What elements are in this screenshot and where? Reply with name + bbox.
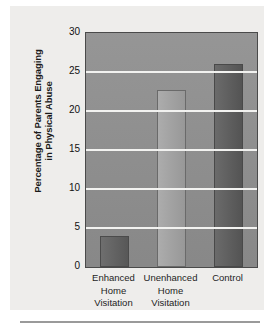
y-tick-label-25: 25 bbox=[56, 66, 80, 76]
y-tick-label-5: 5 bbox=[56, 222, 80, 232]
y-tick-label-0: 0 bbox=[56, 261, 80, 271]
x-axis-tick-labels: Enhanced Home VisitationUnenhanced Home … bbox=[85, 272, 258, 316]
gridline-20 bbox=[86, 110, 257, 112]
gridline-15 bbox=[86, 149, 257, 151]
y-axis-title-text: Percentage of Parents Engaging in Physic… bbox=[32, 49, 55, 192]
bar-sheen bbox=[215, 65, 243, 266]
y-tick-label-20: 20 bbox=[56, 105, 80, 115]
gridline-10 bbox=[86, 188, 257, 190]
bar-sheen bbox=[101, 237, 129, 266]
y-axis-title: Percentage of Parents Engaging in Physic… bbox=[26, 26, 60, 216]
x-tick-label-1: Unenhanced Home Visitation bbox=[142, 272, 199, 310]
gridline-5 bbox=[86, 227, 257, 229]
y-tick-label-10: 10 bbox=[56, 183, 80, 193]
bar-0[interactable] bbox=[100, 236, 130, 267]
y-tick-label-15: 15 bbox=[56, 144, 80, 154]
figure-panel: Percentage of Parents Engaging in Physic… bbox=[10, 6, 264, 310]
gridline-25 bbox=[86, 71, 257, 73]
bar-2[interactable] bbox=[214, 64, 244, 267]
y-axis-tick-labels: 051015202530 bbox=[56, 26, 80, 274]
x-tick-label-2: Control bbox=[199, 272, 256, 285]
bottom-divider-rule bbox=[20, 321, 260, 323]
bar-1[interactable] bbox=[157, 90, 187, 267]
x-tick-label-0: Enhanced Home Visitation bbox=[85, 272, 142, 310]
bar-sheen bbox=[158, 91, 186, 266]
plot-area bbox=[85, 32, 258, 268]
y-tick-label-30: 30 bbox=[56, 27, 80, 37]
